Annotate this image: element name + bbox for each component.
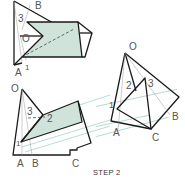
- bl-label-o: O: [11, 83, 19, 94]
- r-label-a: A: [113, 127, 120, 138]
- bl-label-a: A: [17, 158, 24, 169]
- tl-label-3: 3: [18, 13, 24, 24]
- tl-fold-line: [14, 1, 22, 63]
- bl-label-3: 3: [27, 106, 33, 117]
- r-label-3: 3: [148, 78, 154, 89]
- bl-label-1: 1: [16, 139, 21, 148]
- step-2-diagram: B 3 O A 1 O 2 3 1 A C B: [0, 0, 185, 186]
- tl-label-a: A: [15, 67, 22, 78]
- r-label-o: O: [129, 41, 137, 52]
- bottom-left-figure: O 3 2 1 A B C: [11, 83, 110, 169]
- r-label-2: 2: [126, 80, 132, 91]
- top-left-figure: B 3 O A 1: [14, 0, 92, 78]
- bl-label-2: 2: [47, 113, 53, 124]
- r-label-1: 1: [109, 100, 114, 110]
- r-label-b: B: [172, 111, 179, 122]
- bl-label-c: C: [72, 158, 79, 169]
- step-caption: STEP 2: [93, 168, 121, 177]
- r-label-c: C: [152, 132, 159, 143]
- tl-shaded-face: [22, 22, 82, 57]
- bl-label-b: B: [32, 158, 39, 169]
- tl-label-b: B: [35, 0, 42, 11]
- right-figure: O 2 3 1 A C B: [96, 41, 179, 143]
- tl-label-o: O: [22, 33, 30, 44]
- r-edge-o-a: [118, 53, 125, 130]
- tl-label-1: 1: [25, 63, 30, 72]
- r-construction-2: [96, 115, 150, 126]
